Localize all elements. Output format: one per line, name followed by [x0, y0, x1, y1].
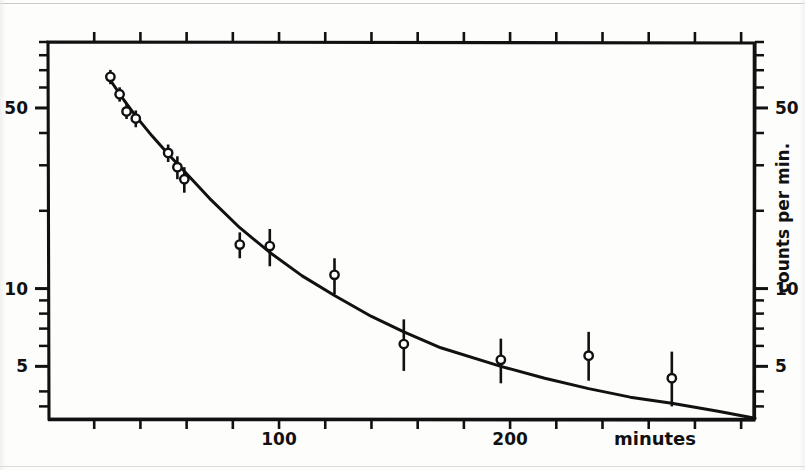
data-point-marker — [584, 351, 592, 359]
x-axis-label: minutes — [614, 428, 696, 449]
data-point-marker — [106, 73, 114, 81]
y-tick-label-left-5: 5 — [16, 356, 28, 376]
data-point-marker — [164, 149, 172, 157]
data-point-marker — [400, 340, 408, 348]
x-tick-label-200: 200 — [492, 429, 528, 449]
y-tick-label-right-5: 5 — [775, 356, 787, 376]
y-axis-ticks-right — [755, 42, 768, 406]
y-axis-ticks-left — [35, 42, 48, 406]
scan-artifact-top-line — [0, 3, 805, 4]
data-point-marker — [497, 356, 505, 364]
y-tick-label-left-10: 10 — [4, 279, 28, 299]
fitted-decay-curve — [110, 80, 755, 418]
data-point-marker — [236, 240, 244, 248]
plot-frame-rect — [48, 42, 755, 420]
data-point-markers — [106, 73, 676, 383]
plot-frame — [48, 42, 755, 420]
data-point-marker — [132, 114, 140, 122]
semilog-decay-plot: 100 200 minutes 50 10 5 50 10 5 counts p… — [0, 0, 805, 470]
scan-artifact-left-shade — [0, 0, 6, 470]
data-point-marker — [122, 107, 130, 115]
data-point-marker — [180, 175, 188, 183]
data-point-marker — [330, 271, 338, 279]
x-tick-label-100: 100 — [261, 429, 297, 449]
data-point-marker — [173, 163, 181, 171]
decay-curve-path — [110, 80, 755, 418]
x-axis-ticks-top — [94, 32, 741, 42]
data-point-marker — [115, 90, 123, 98]
scan-artifact-bottom-line — [0, 466, 805, 467]
data-point-marker — [668, 374, 676, 382]
decay-curve-figure: 100 200 minutes 50 10 5 50 10 5 counts p… — [0, 0, 805, 470]
y-tick-label-right-50: 50 — [775, 98, 799, 118]
y-tick-label-left-50: 50 — [4, 98, 28, 118]
y-axis-label: counts per min. — [773, 143, 793, 293]
scan-artifact-right-shade — [799, 0, 805, 470]
data-point-marker — [266, 242, 274, 250]
